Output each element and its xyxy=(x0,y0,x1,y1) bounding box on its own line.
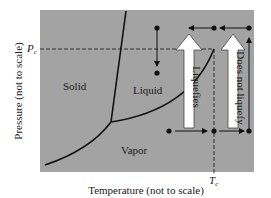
state-dot xyxy=(246,128,251,133)
tc-marker: Tc xyxy=(209,174,219,188)
liquefies-label: Liquefies xyxy=(191,66,203,108)
y-axis-label: Pressure (not to scale) xyxy=(12,42,25,140)
x-axis-label: Temperature (not to scale) xyxy=(88,184,204,197)
region-liquid-label: Liquid xyxy=(133,84,163,96)
state-dot xyxy=(211,25,216,30)
state-dot xyxy=(154,70,159,75)
state-dot xyxy=(154,25,159,30)
region-vapor-label: Vapor xyxy=(121,144,148,156)
phase-diagram: Liquefies Does not liquefy Solid Liquid … xyxy=(0,0,271,198)
does-not-liquefy-label: Does not liquefy xyxy=(235,51,247,125)
state-dot xyxy=(211,128,216,133)
pc-marker: Pc xyxy=(26,42,38,56)
state-dot xyxy=(166,128,171,133)
state-dot xyxy=(246,25,251,30)
region-solid-label: Solid xyxy=(63,80,87,92)
